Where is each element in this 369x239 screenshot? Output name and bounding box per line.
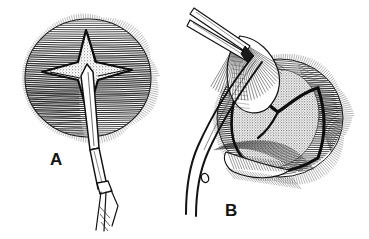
surgical-technique-illustration [0,0,369,239]
scalpel-ferrule [97,181,112,194]
clamp-finger-ring-hole [200,173,209,184]
panel-b-label: B [225,202,237,219]
panel-a-label: A [50,151,62,168]
panel-b-forceps [187,8,254,62]
scalpel-handle-fork [96,190,118,231]
panel-a-group [22,14,160,231]
panel-b-group [186,8,354,216]
figure-container: A B [0,0,369,239]
